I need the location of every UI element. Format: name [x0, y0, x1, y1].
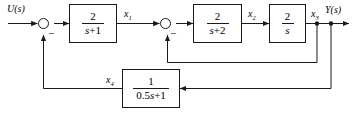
transfer-function-h1: 1 0.5s+1 — [133, 76, 169, 101]
block-h1[interactable]: 1 0.5s+1 — [122, 69, 180, 108]
block-g2[interactable]: 2 s+2 — [193, 4, 242, 43]
label-x3: x3 — [311, 8, 319, 21]
label-output-ys: Y(s) — [325, 4, 341, 15]
g2-numerator: 2 — [212, 11, 224, 22]
block-g1[interactable]: 2 s+1 — [69, 4, 117, 43]
label-x4: x4 — [106, 74, 114, 87]
summing-junction-1[interactable] — [38, 18, 49, 29]
sign-sum2-feedback: − — [170, 28, 176, 39]
block-g3[interactable]: 2 s — [269, 4, 306, 43]
h1-numerator: 1 — [145, 76, 157, 87]
pickoff-dot-output — [329, 21, 333, 25]
g3-numerator: 2 — [282, 11, 294, 22]
g3-denominator: s — [282, 25, 292, 36]
block-diagram-canvas: 2 s+1 2 s+2 2 s 1 0.5s+1 U(s) x1 x2 x3 Y… — [0, 0, 352, 120]
pickoff-dot-x3 — [315, 21, 319, 25]
g2-denominator: s+2 — [207, 25, 229, 36]
g1-numerator: 2 — [87, 11, 99, 22]
summing-junction-2[interactable] — [160, 18, 171, 29]
label-input-us: U(s) — [7, 3, 25, 14]
sign-sum1-feedback: − — [48, 28, 54, 39]
h1-denominator: 0.5s+1 — [133, 90, 169, 101]
transfer-function-g2: 2 s+2 — [207, 11, 229, 36]
label-x1: x1 — [124, 8, 132, 21]
transfer-function-g3: 2 s — [282, 11, 294, 36]
transfer-function-g1: 2 s+1 — [82, 11, 104, 36]
g1-denominator: s+1 — [82, 25, 104, 36]
label-x2: x2 — [248, 8, 256, 21]
